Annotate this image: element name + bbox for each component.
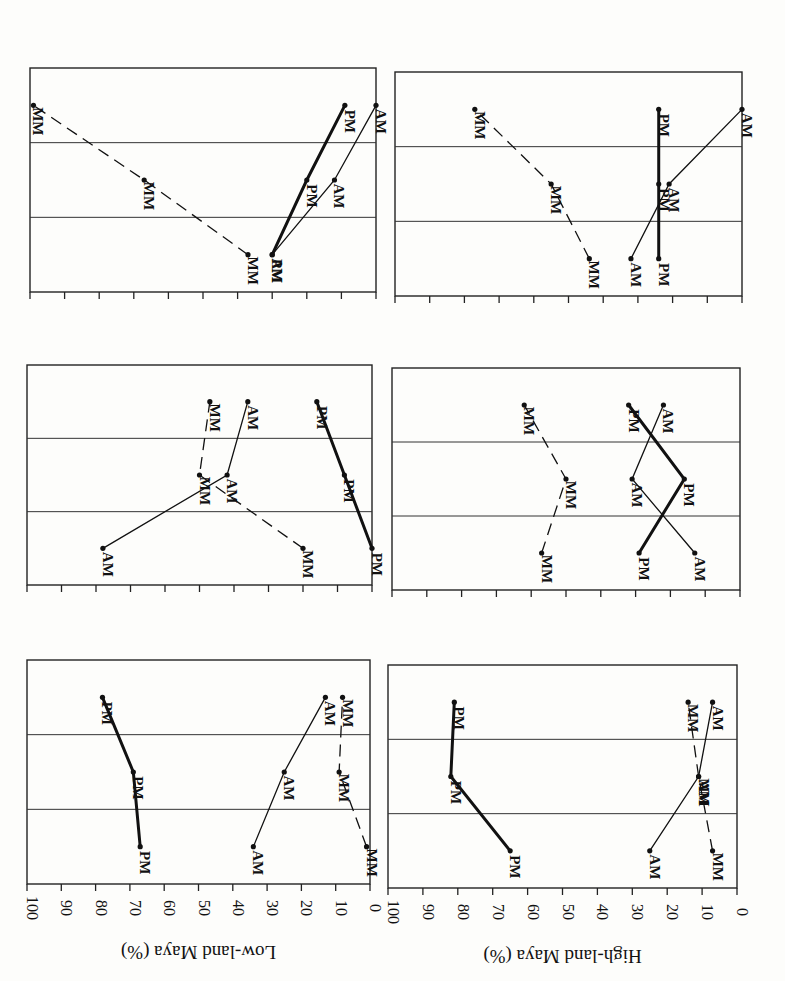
series-line-am: [631, 109, 742, 258]
point-label-am: AM: [692, 557, 708, 582]
data-point-pm: [636, 550, 641, 555]
series-line-mm: [475, 109, 590, 258]
point-label-pm: PM: [656, 114, 672, 137]
point-label-mm: MM: [586, 261, 602, 289]
axis-title-lowland: Low-land Maya (%): [121, 941, 276, 963]
point-label-am: AM: [245, 405, 261, 430]
data-point-am: [245, 399, 250, 404]
point-label-pm: PM: [656, 263, 672, 286]
data-point-am: [739, 107, 744, 112]
data-point-am: [332, 177, 337, 182]
axis-tick-label: 0: [734, 908, 751, 916]
point-label-am: AM: [373, 109, 389, 134]
data-point-am: [661, 402, 666, 407]
point-label-mm: MM: [472, 111, 488, 139]
chart-panel-2: PMPMPMAMAMAMMMMMMM: [388, 665, 737, 895]
data-point-pm: [100, 695, 105, 700]
point-label-mm: MM: [364, 849, 380, 877]
point-label-mm: MM: [141, 182, 157, 210]
point-label-am: AM: [628, 262, 644, 287]
point-label-pm: PM: [137, 851, 153, 874]
point-label-mm: MM: [207, 404, 223, 432]
chart-panel-6: PMPMPMAMAMAMMMMMMM: [395, 72, 755, 303]
point-label-mm: MM: [300, 550, 316, 578]
axis-tick-label: 60: [161, 900, 178, 916]
axis-tick-label: 40: [594, 904, 611, 920]
point-label-am: AM: [322, 701, 338, 726]
point-label-mm: MM: [521, 407, 537, 435]
data-point-pm: [369, 546, 374, 551]
data-point-am: [628, 256, 633, 261]
point-label-pm: PM: [341, 479, 357, 502]
data-point-am: [667, 181, 672, 186]
axis-tick-label: 60: [525, 904, 542, 920]
chart-panel-4: PMPMPMAMAMAMMMMMMM: [392, 368, 740, 597]
axis-tick-label: 10: [699, 904, 716, 920]
data-point-pm: [682, 476, 687, 481]
series-line-am: [253, 697, 325, 846]
data-point-am: [282, 769, 287, 774]
data-point-am: [323, 695, 328, 700]
point-label-mm: MM: [563, 481, 579, 509]
point-label-am: AM: [250, 850, 266, 875]
axis-tick-label: 0: [367, 904, 384, 912]
axis-tick-label: 30: [629, 904, 646, 920]
point-label-pm: PM: [304, 184, 320, 207]
data-point-pm: [314, 399, 319, 404]
data-point-pm: [131, 769, 136, 774]
axis-tick-label: 40: [230, 900, 247, 916]
point-label-mm: MM: [336, 774, 352, 802]
point-label-pm: PM: [342, 110, 358, 133]
point-label-mm: MM: [685, 704, 701, 732]
data-point-pm: [448, 774, 453, 779]
axis-tick-label: 80: [455, 904, 472, 920]
point-label-pm: PM: [636, 557, 652, 580]
data-point-am: [270, 252, 275, 257]
point-label-mm: MM: [245, 257, 261, 285]
axis-tick-label: 70: [127, 900, 144, 916]
point-label-pm: PM: [314, 406, 330, 429]
chart-panel-3: PMPMPMAMAMAMMMMMMM: [27, 365, 385, 592]
point-label-am: AM: [647, 854, 663, 879]
data-point-pm: [656, 181, 661, 186]
series-line-am: [650, 702, 713, 851]
data-point-am: [373, 103, 378, 108]
point-label-pm: PM: [626, 409, 642, 432]
point-label-mm: MM: [710, 853, 726, 881]
data-point-pm: [626, 402, 631, 407]
point-label-pm: PM: [369, 553, 385, 576]
data-point-pm: [304, 177, 309, 182]
axis-tick-label: 30: [264, 900, 281, 916]
data-point-pm: [656, 107, 661, 112]
axis-tick-label: 100: [385, 900, 402, 924]
point-label-mm: MM: [30, 107, 46, 135]
point-label-pm: PM: [448, 781, 464, 804]
point-label-am: AM: [660, 409, 676, 434]
series-line-mm: [33, 105, 248, 254]
point-label-pm: PM: [130, 776, 146, 799]
data-point-am: [225, 472, 230, 477]
point-label-am: AM: [331, 184, 347, 209]
axis-tick-label: 10: [333, 900, 350, 916]
point-label-mm: MM: [696, 778, 712, 806]
point-label-am: AM: [100, 552, 116, 577]
axis-tick-label: 50: [196, 900, 213, 916]
data-point-pm: [508, 848, 513, 853]
point-label-mm: MM: [539, 555, 555, 583]
axis-tick-label: 20: [664, 904, 681, 920]
chart-panel-5: PMPMPMAMAMAMMMMMMM: [30, 68, 389, 299]
data-point-am: [647, 848, 652, 853]
point-label-am: AM: [281, 776, 297, 801]
point-label-am: AM: [710, 706, 726, 731]
chart-panel-1: PMPMPMAMAMAMMMMMMM: [27, 660, 380, 891]
data-point-am: [692, 550, 697, 555]
data-point-am: [630, 476, 635, 481]
point-label-am: AM: [224, 479, 240, 504]
point-label-mm: MM: [340, 699, 356, 727]
data-point-pm: [138, 844, 143, 849]
six-panel-line-chart: PMPMPMAMAMAMMMMMMMPMPMPMAMAMAMMMMMMMPMPM…: [0, 0, 785, 981]
data-point-pm: [656, 256, 661, 261]
data-point-pm: [452, 700, 457, 705]
axis-tick-label: 100: [24, 896, 41, 920]
point-label-mm: MM: [197, 477, 213, 505]
